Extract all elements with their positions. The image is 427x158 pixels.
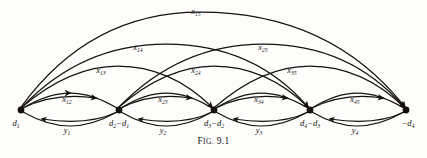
label-y1: y1 [63, 126, 71, 136]
node-2 [116, 107, 123, 114]
label-y2: y2 [159, 126, 167, 136]
node-1 [18, 107, 25, 114]
caption-number: 9.1 [217, 136, 230, 146]
label-x14: x14 [132, 43, 142, 53]
label-y4: y4 [351, 126, 359, 136]
label-y3: y3 [255, 126, 263, 136]
node-3 [211, 107, 218, 114]
caption-small-caps: IG. [203, 137, 214, 146]
arc-y1-head [42, 112, 117, 121]
arc-y3 [216, 112, 308, 126]
node-4 [307, 107, 314, 114]
arc-y4-head [330, 112, 404, 121]
arc-y2 [121, 112, 212, 126]
node-label-1: d1 [12, 118, 19, 129]
figure-container: x12 x23 x34 x45 x13 x24 x35 x14 [0, 0, 427, 158]
arc-x15 [21, 12, 405, 107]
label-x15: x15 [190, 7, 200, 17]
node-label-2: d2−d1 [109, 118, 129, 129]
arc-y2-head [139, 112, 212, 121]
arc-y3-head [234, 112, 308, 121]
forward-arc-labels: x12 x23 x34 x45 x13 x24 x35 x14 [61, 7, 359, 105]
node-label-3: d3−d2 [204, 118, 224, 129]
network-flow-diagram: x12 x23 x34 x45 x13 x24 x35 x14 [0, 0, 427, 158]
figure-caption: FIG. 9.1 [0, 136, 427, 146]
node-label-5: −d4 [401, 118, 414, 129]
arc-y4 [312, 112, 404, 126]
node-label-4: d4−d3 [300, 118, 320, 129]
arc-x35 [215, 66, 404, 107]
node-group [18, 107, 410, 114]
node-5 [403, 107, 410, 114]
arc-y1 [23, 112, 117, 126]
arc-x24 [119, 66, 308, 107]
forward-arc-group [21, 12, 405, 108]
